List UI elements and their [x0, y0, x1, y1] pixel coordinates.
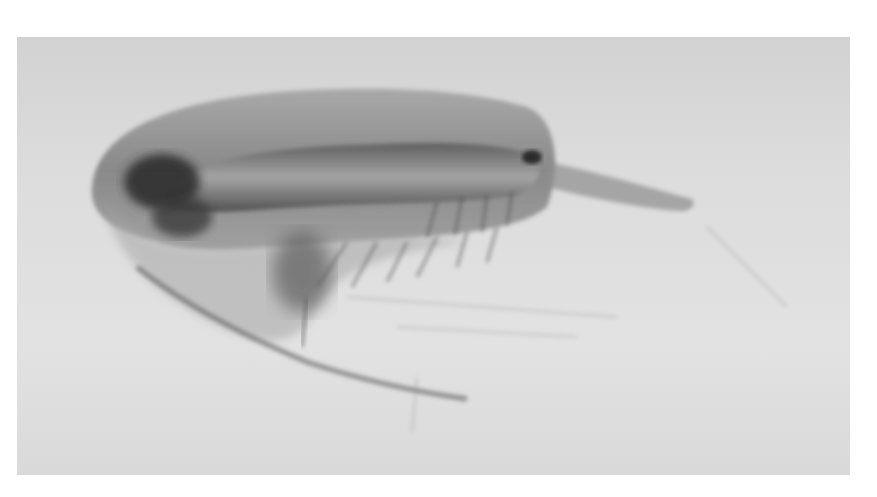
- copepod-illustration: [17, 37, 850, 475]
- copepod-photograph: [17, 37, 850, 475]
- tail-urosome: [547, 162, 694, 211]
